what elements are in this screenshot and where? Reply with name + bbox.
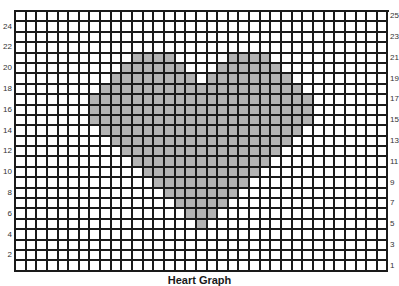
grid-cell	[357, 74, 368, 84]
grid-cell-filled	[271, 64, 282, 74]
grid-cell	[59, 241, 70, 251]
grid-cell	[27, 199, 38, 209]
grid-cell	[133, 220, 144, 230]
grid-cell	[90, 189, 101, 199]
grid-cell	[154, 199, 165, 209]
grid-cell	[208, 220, 219, 230]
grid-cell-filled	[186, 95, 197, 105]
grid-cell	[101, 137, 112, 147]
grid-cell	[250, 209, 261, 219]
grid-cell	[335, 168, 346, 178]
grid-cell-filled	[186, 137, 197, 147]
grid-cell	[293, 22, 304, 32]
grid-cell-filled	[197, 116, 208, 126]
grid-cell	[357, 85, 368, 95]
grid-cell-filled	[229, 106, 240, 116]
row-label-right: 3	[390, 240, 394, 250]
grid-cell-filled	[197, 178, 208, 188]
grid-cell	[27, 261, 38, 271]
grid-cell	[282, 43, 293, 53]
grid-cell	[239, 43, 250, 53]
grid-cell	[314, 33, 325, 43]
grid-cell	[239, 220, 250, 230]
grid-cell	[303, 189, 314, 199]
grid-cell-filled	[293, 85, 304, 95]
grid-cell	[144, 33, 155, 43]
row-label-left: 14	[0, 126, 12, 136]
grid-cell	[154, 43, 165, 53]
grid-cell	[122, 261, 133, 271]
grid-cell-filled	[165, 147, 176, 157]
grid-cell	[303, 12, 314, 22]
grid-cell	[101, 54, 112, 64]
grid-cell-filled	[165, 85, 176, 95]
grid-cell	[165, 209, 176, 219]
grid-cell	[112, 209, 123, 219]
grid-cell	[80, 74, 91, 84]
grid-cell	[27, 178, 38, 188]
grid-cell	[154, 12, 165, 22]
grid-cell	[346, 116, 357, 126]
grid-cell	[122, 251, 133, 261]
grid-cell	[154, 220, 165, 230]
grid-cell	[271, 189, 282, 199]
grid-cell-filled	[165, 95, 176, 105]
grid-cell-filled	[208, 168, 219, 178]
grid-cell-filled	[133, 64, 144, 74]
grid-cell	[122, 43, 133, 53]
grid-cell-filled	[144, 85, 155, 95]
grid-cell	[37, 116, 48, 126]
grid-cell-filled	[165, 116, 176, 126]
grid-cell-filled	[133, 54, 144, 64]
grid-cell	[59, 251, 70, 261]
grid-cell	[367, 241, 378, 251]
grid-cell	[112, 199, 123, 209]
grid-cell	[325, 230, 336, 240]
grid-cell	[239, 261, 250, 271]
grid-cell	[335, 220, 346, 230]
grid-cell	[314, 85, 325, 95]
grid-cell	[122, 230, 133, 240]
grid-cell-filled	[218, 126, 229, 136]
grid-cell	[197, 43, 208, 53]
grid-cell	[261, 33, 272, 43]
grid-cell	[90, 126, 101, 136]
grid-cell	[16, 33, 27, 43]
grid-cell-filled	[250, 147, 261, 157]
grid-cell	[303, 168, 314, 178]
grid-cell	[346, 12, 357, 22]
grid-cell-filled	[154, 126, 165, 136]
grid-cell-filled	[133, 137, 144, 147]
grid-cell-filled	[208, 126, 219, 136]
grid-cell	[314, 241, 325, 251]
grid-cell-filled	[176, 106, 187, 116]
grid-cell	[303, 33, 314, 43]
grid-cell	[229, 43, 240, 53]
row-label-right: 17	[390, 94, 399, 104]
grid-cell	[112, 147, 123, 157]
grid-cell	[133, 241, 144, 251]
grid-cell	[80, 33, 91, 43]
grid-cell	[27, 116, 38, 126]
grid-cell	[37, 12, 48, 22]
grid-cell	[16, 189, 27, 199]
grid-cell	[48, 251, 59, 261]
grid-cell	[112, 178, 123, 188]
grid-cell	[208, 33, 219, 43]
grid-cell	[239, 230, 250, 240]
grid-cell	[346, 261, 357, 271]
grid-cell	[250, 199, 261, 209]
grid-cell	[186, 33, 197, 43]
grid-cell	[122, 12, 133, 22]
grid-cell	[48, 54, 59, 64]
grid-cell-filled	[261, 95, 272, 105]
grid-cell	[69, 220, 80, 230]
grid-cell-filled	[282, 126, 293, 136]
grid-cell	[282, 33, 293, 43]
grid-cell	[69, 33, 80, 43]
grid-cell-filled	[282, 137, 293, 147]
grid-cell	[357, 116, 368, 126]
row-label-left: 12	[0, 146, 12, 156]
grid-cell	[27, 137, 38, 147]
grid-cell	[335, 126, 346, 136]
